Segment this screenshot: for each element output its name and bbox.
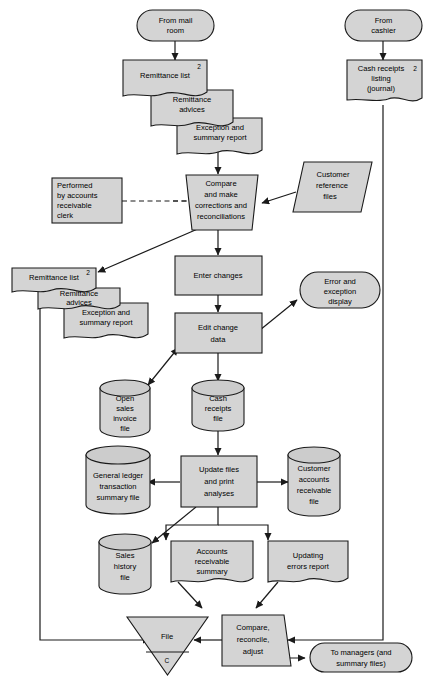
- node-enter-changes: Enter changes: [175, 256, 262, 295]
- clerk-note-label-3: receivable: [57, 201, 92, 210]
- remittance-list-1-label: Remittance list: [140, 71, 191, 80]
- flowchart-canvas: From mail room From cashier Cash receipt…: [0, 0, 437, 690]
- compare-reconcile-label-1: Compare,: [236, 623, 269, 632]
- general-ledger-label-3: summary file: [96, 493, 139, 502]
- node-open-sales-invoice-file: Open sales invoice file: [100, 380, 150, 437]
- remittance-advices-1-label-1: Remittance: [173, 95, 211, 104]
- cash-receipts-listing-label-3: (journal): [367, 84, 395, 93]
- error-display-label-1: Error and: [324, 277, 356, 286]
- compare-reconcile-label-3: adjust: [243, 647, 264, 656]
- exception-summary-2-label-2: summary report: [79, 318, 133, 327]
- remittance-list-1-copies: 2: [197, 63, 201, 70]
- error-display-label-2: exception: [324, 287, 357, 296]
- flowchart-svg: From mail room From cashier Cash receipt…: [0, 0, 437, 690]
- cash-receipts-listing-copies: 2: [413, 65, 417, 72]
- exception-summary-1-label-2: summary report: [193, 133, 247, 142]
- node-sales-history-file: Sales history file: [99, 534, 151, 594]
- node-cash-receipts-file: Cash receipts file: [192, 380, 244, 431]
- node-error-exception-display: Error and exception display: [300, 272, 380, 308]
- sales-history-label-2: history: [114, 562, 137, 571]
- clerk-note-label-4: clerk: [57, 211, 73, 220]
- cash-receipts-file-label-2: receipts: [205, 404, 232, 413]
- customer-reference-label-3: files: [323, 192, 337, 201]
- file-store-label: File: [161, 632, 173, 641]
- customer-accounts-label-2: accounts: [299, 475, 330, 484]
- to-managers-label-2: summary files): [336, 659, 386, 668]
- sales-history-label-3: file: [120, 573, 130, 582]
- customer-accounts-label-1: Customer: [298, 464, 331, 473]
- enter-changes-label: Enter changes: [194, 271, 243, 280]
- node-performed-by-clerk-note: Performed by accounts receivable clerk: [52, 178, 122, 223]
- sales-history-label-1: Sales: [116, 551, 135, 560]
- customer-reference-label-2: reference: [316, 181, 348, 190]
- node-from-mail-room: From mail room: [137, 10, 214, 41]
- update-files-label-2: and print: [204, 477, 234, 486]
- exception-summary-2-label-1: Exception and: [82, 308, 130, 317]
- file-store-sort-code: C: [165, 657, 170, 664]
- general-ledger-label-2: transaction: [99, 482, 136, 491]
- node-remittance-list-1: Remittance list 2: [123, 60, 207, 96]
- conn-edit-to-errordisplay: [260, 300, 297, 330]
- node-edit-change-data: Edit change data: [175, 313, 262, 353]
- edit-change-data-label-2: data: [211, 335, 227, 344]
- remittance-list-2-copies: 2: [86, 269, 90, 276]
- remittance-advices-1-label-2: advices: [179, 105, 205, 114]
- compare-reconcile-label-2: reconcile,: [237, 635, 270, 644]
- node-general-ledger-file: General ledger transaction summary file: [86, 446, 150, 514]
- clerk-note-label-2: by accounts: [57, 191, 98, 200]
- node-updating-errors-report: Updating errors report: [268, 541, 348, 582]
- error-display-label-3: display: [328, 297, 352, 306]
- updating-errors-label-2: errors report: [287, 562, 330, 571]
- node-file-store: File C: [127, 617, 208, 675]
- conn-arsummary-to-compare2: [178, 582, 202, 608]
- compare-corrections-label-1: Compare: [205, 179, 236, 188]
- from-cashier-label-1: From: [375, 16, 393, 25]
- compare-corrections-label-2: and make: [204, 190, 237, 199]
- node-accounts-receivable-summary: Accounts receivable summary: [171, 541, 253, 582]
- customer-reference-label-1: Customer: [317, 170, 350, 179]
- node-cash-receipts-listing: Cash receipts listing (journal) 2: [347, 60, 422, 101]
- node-compare-reconcile-adjust: Compare, reconcile, adjust: [222, 615, 291, 666]
- from-mail-room-label-1: From mail: [159, 16, 193, 25]
- updating-errors-label-1: Updating: [293, 551, 323, 560]
- node-update-files-print: Update files and print analyses: [181, 456, 257, 507]
- node-from-cashier: From cashier: [345, 10, 422, 41]
- from-mail-room-label-2: room: [167, 26, 184, 35]
- ar-summary-label-1: Accounts: [196, 547, 227, 556]
- compare-corrections-label-3: corrections and: [195, 201, 247, 210]
- cash-receipts-file-label-1: Cash: [209, 394, 227, 403]
- open-sales-label-3: invoice: [113, 414, 137, 423]
- remittance-list-2-label: Remittance list: [29, 273, 80, 282]
- from-cashier-label-2: cashier: [371, 26, 396, 35]
- conn-errorsreport-to-compare2: [256, 582, 278, 608]
- cash-receipts-file-label-3: file: [213, 414, 223, 423]
- update-files-label-1: Update files: [199, 465, 239, 474]
- cash-receipts-listing-label-2: listing: [371, 74, 390, 83]
- node-customer-accounts-file: Customer accounts receivable file: [288, 447, 340, 516]
- cash-receipts-listing-label-1: Cash receipts: [358, 64, 405, 73]
- ar-summary-label-2: receivable: [195, 557, 230, 566]
- edit-change-data-label-1: Edit change: [198, 323, 238, 332]
- node-remittance-list-2: Remittance list 2: [12, 268, 96, 292]
- clerk-note-label-1: Performed: [57, 181, 92, 190]
- node-customer-reference-files: Customer reference files: [293, 162, 372, 212]
- customer-accounts-label-3: receivable: [297, 486, 332, 495]
- update-files-label-3: analyses: [204, 489, 234, 498]
- open-sales-label-4: file: [120, 424, 130, 433]
- open-sales-label-2: sales: [116, 404, 134, 413]
- node-compare-make-corrections: Compare and make corrections and reconci…: [186, 175, 258, 230]
- remittance-advices-2-label-2: advices: [66, 298, 92, 307]
- open-sales-label-1: Open: [116, 394, 135, 403]
- node-to-managers: To managers (and summary files): [310, 643, 412, 672]
- compare-corrections-label-4: reconciliations: [197, 212, 245, 221]
- customer-accounts-label-4: file: [309, 497, 319, 506]
- general-ledger-label-1: General ledger: [93, 471, 144, 480]
- conn-edit-opensales-bidirectional: [148, 348, 178, 385]
- conn-update-to-arsummary: [166, 507, 218, 540]
- to-managers-label-1: To managers (and: [330, 648, 391, 657]
- ar-summary-label-3: summary: [196, 567, 227, 576]
- conn-custref-to-compare: [262, 192, 296, 203]
- conn-update-to-errorsreport: [218, 525, 268, 540]
